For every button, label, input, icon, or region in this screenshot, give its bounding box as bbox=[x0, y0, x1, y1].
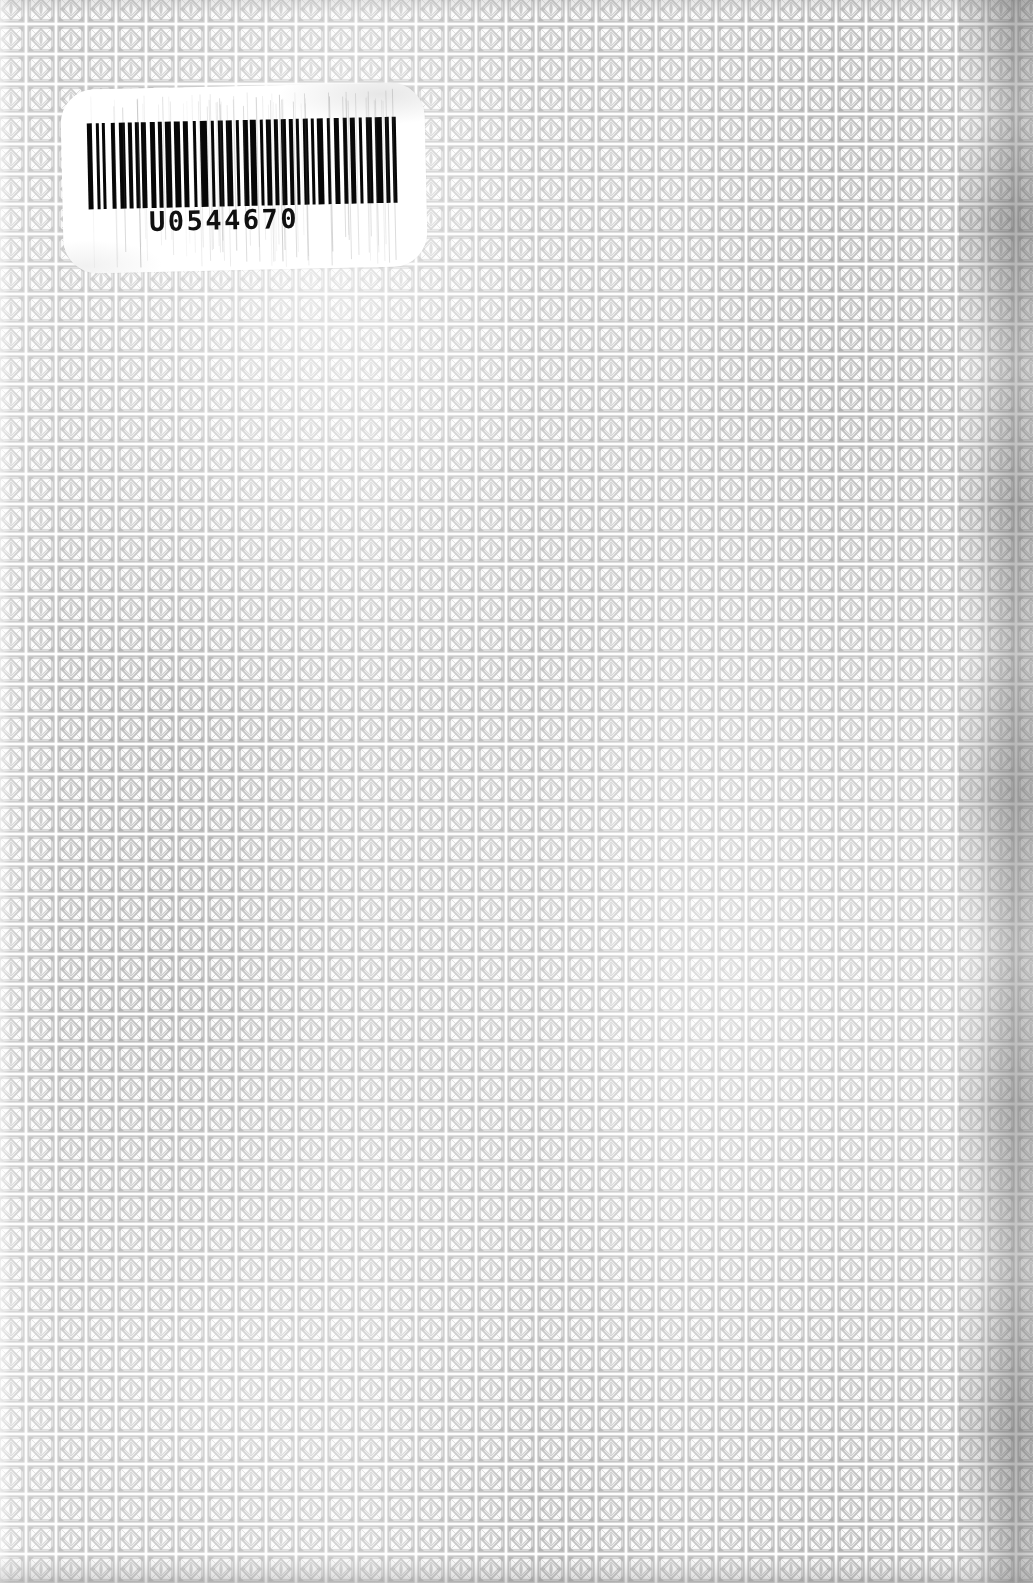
barcode-space bbox=[395, 117, 399, 203]
barcode-number-text: U0544670 bbox=[149, 203, 300, 237]
library-barcode-label[interactable]: U0544670 bbox=[60, 82, 428, 274]
scanned-page: U0544670 bbox=[0, 0, 1033, 1583]
barcode-bars bbox=[87, 117, 401, 210]
barcode-label-surface: U0544670 bbox=[60, 82, 428, 274]
